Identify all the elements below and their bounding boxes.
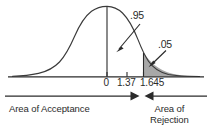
rejection-region-label-line1: Area of — [150, 103, 189, 114]
acceptance-probability-label: .95 — [130, 10, 144, 21]
rejection-region-label: Area of Rejection — [150, 103, 189, 125]
rejection-probability-label: .05 — [158, 39, 172, 50]
axis-tick-label-1-645: 1.645 — [140, 78, 164, 89]
axis-tick-label-1-37: 1.37 — [117, 78, 136, 89]
distribution-figure: .95 .05 0 1.37 1.645 Area of Acceptance … — [0, 0, 212, 129]
acceptance-region-label: Area of Acceptance — [9, 104, 90, 114]
rejection-region-label-line2: Rejection — [150, 114, 189, 125]
axis-tick-label-0: 0 — [104, 78, 109, 89]
acceptance-span-arrowhead — [131, 91, 140, 100]
rejection-span-arrowhead — [145, 91, 154, 100]
